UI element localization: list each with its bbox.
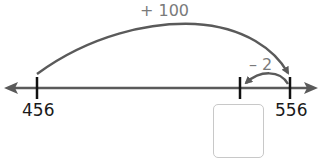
label-end-value: 556 bbox=[275, 102, 307, 119]
jump-label-minus-2: – 2 bbox=[249, 57, 272, 73]
number-line-diagram bbox=[0, 0, 322, 161]
jump-arc-minus-2 bbox=[246, 73, 288, 84]
answer-box[interactable] bbox=[213, 104, 264, 158]
jump-label-plus-100: + 100 bbox=[140, 3, 189, 19]
label-start-value: 456 bbox=[22, 102, 54, 119]
number-line bbox=[4, 82, 318, 94]
